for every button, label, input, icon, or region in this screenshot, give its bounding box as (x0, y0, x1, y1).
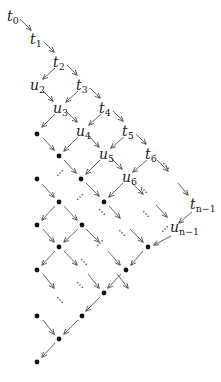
bullet-node (80, 314, 85, 319)
arrow-icon (86, 297, 100, 311)
bullet-node (35, 177, 40, 182)
ellipsis-icon (143, 211, 149, 217)
arrow-icon (130, 229, 143, 242)
ellipsis-icon (99, 209, 105, 215)
ellipsis-icon (163, 163, 169, 169)
node-label-subscript: 0 (13, 15, 19, 26)
arrow-icon (42, 206, 55, 220)
node-label-subscript: 6 (151, 153, 157, 164)
arrow-icon (108, 251, 120, 265)
arrow-icon (86, 160, 100, 174)
bullet-node (57, 245, 62, 250)
bullet-node (80, 223, 85, 228)
node-label-subscript: 2 (59, 61, 65, 72)
node-label-subscript: 4 (85, 130, 91, 141)
arrow-icon (64, 160, 76, 173)
arrow-icon (42, 343, 55, 357)
arrow-icon (117, 274, 128, 288)
bullet-node (102, 200, 107, 205)
node-label-subscript: n−1 (196, 203, 216, 214)
arrow-icon (43, 320, 54, 334)
arrow-icon (44, 42, 54, 52)
bullet-node (124, 268, 129, 273)
arrow-icon (109, 183, 123, 197)
ellipsis-icon (57, 297, 63, 303)
arrow-icon (67, 65, 77, 75)
ellipsis-icon (57, 170, 63, 176)
arrow-icon (109, 206, 120, 218)
bullet-node (146, 245, 151, 250)
node-label-u4: u4 (76, 123, 91, 141)
labels-layer: t0t1t2t3t4t5t6tn−1u2u3u4u5u6un−1 (7, 8, 216, 237)
arrow-icon (131, 251, 143, 265)
arrow-icon (42, 184, 54, 197)
bullet-node (79, 177, 84, 182)
arrow-icon (43, 274, 54, 288)
ellipsis-icon (77, 282, 83, 288)
arrow-icon (64, 206, 77, 220)
arrow-icon (86, 229, 99, 242)
node-label-subscript: 5 (128, 130, 134, 141)
arrow-icon (86, 183, 99, 196)
arrow-icon (20, 19, 31, 30)
arrows-layer (20, 19, 192, 357)
ellipsis-icon (77, 194, 83, 200)
arrow-icon (43, 138, 54, 150)
node-label-t1: t1 (30, 31, 42, 49)
bullet-node (102, 291, 107, 296)
arrow-icon (64, 320, 78, 334)
ellipsis-icon (81, 259, 87, 265)
node-label-u6: u6 (122, 169, 137, 187)
dots-layer (35, 132, 151, 365)
bullet-node (57, 154, 62, 159)
arrow-icon (179, 212, 192, 223)
node-label-t0: t0 (7, 8, 19, 26)
arrow-icon (136, 134, 146, 144)
arrow-icon (64, 137, 78, 151)
node-label-subscript: n−1 (179, 226, 199, 237)
bullet-node (35, 132, 40, 137)
node-label-subscript: 3 (82, 84, 88, 95)
arrow-icon (43, 229, 54, 242)
bullet-node (35, 223, 40, 228)
arrow-icon (64, 229, 78, 242)
node-label-t6: t6 (145, 146, 157, 164)
node-label-t4: t4 (99, 100, 111, 118)
arrow-icon (42, 251, 55, 265)
arrow-icon (154, 236, 171, 245)
bullet-node (57, 337, 62, 342)
lattice-diagram: t0t1t2t3t4t5t6tn−1u2u3u4u5u6un−1 (0, 0, 221, 382)
arrow-icon (156, 205, 167, 217)
arrow-icon (88, 274, 99, 288)
node-label-u5: u5 (99, 146, 114, 164)
bullet-node (35, 314, 40, 319)
ellipsis-icon (162, 226, 168, 232)
node-label-tn1: tn−1 (190, 196, 216, 214)
node-label-t5: t5 (122, 123, 134, 141)
node-label-subscript: 1 (36, 38, 42, 49)
arrow-icon (178, 183, 188, 195)
ellipsis-icon (141, 187, 147, 193)
bullet-node (35, 360, 40, 365)
node-label-u2: u2 (30, 77, 45, 95)
node-label-t2: t2 (53, 54, 65, 72)
arrow-icon (64, 251, 77, 265)
node-label-u3: u3 (53, 100, 68, 118)
arrow-icon (90, 88, 100, 98)
node-label-subscript: 3 (62, 107, 68, 118)
node-label-subscript: 5 (108, 153, 114, 164)
arrow-icon (113, 111, 123, 121)
ellipsis-icon (119, 230, 125, 236)
node-label-subscript: 2 (39, 84, 45, 95)
node-label-subscript: 6 (131, 176, 137, 187)
node-label-t3: t3 (76, 77, 88, 95)
node-label-subscript: 4 (105, 107, 111, 118)
node-label-un1: un−1 (170, 219, 199, 237)
bullet-node (57, 200, 62, 205)
bullet-node (35, 268, 40, 273)
